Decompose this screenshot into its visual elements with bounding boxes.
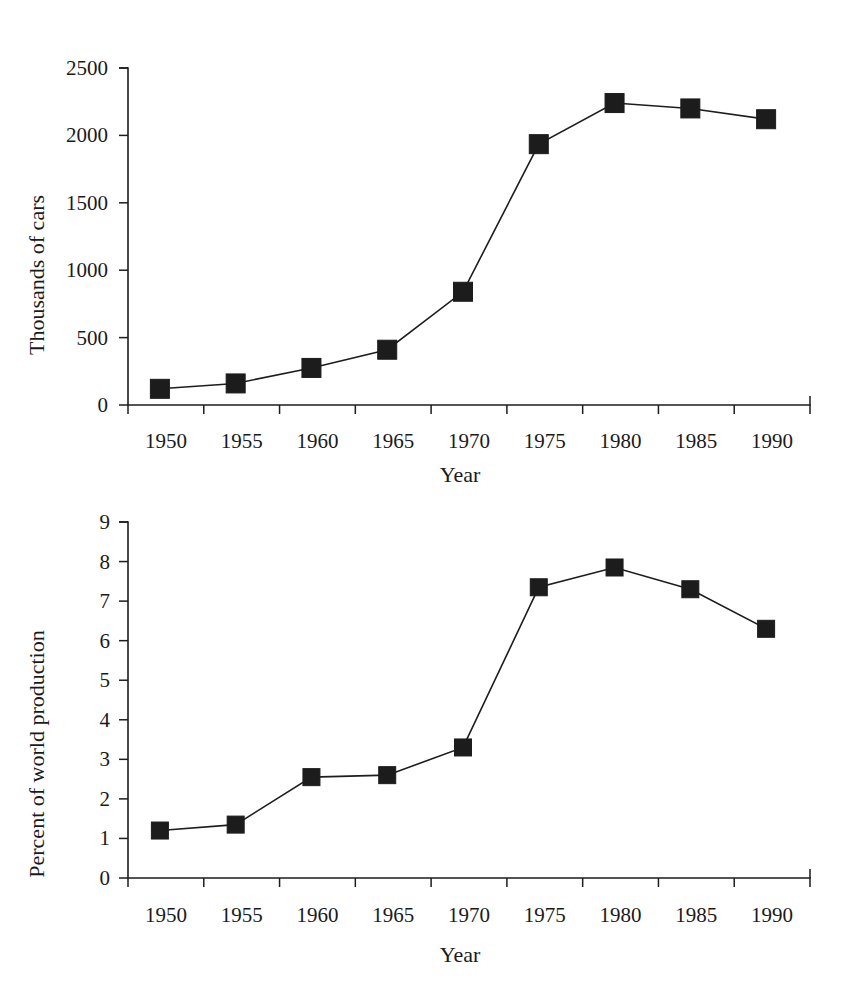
y-tick-label: 1 bbox=[100, 826, 111, 850]
x-tick-label: 1970 bbox=[448, 903, 490, 927]
y-tick-label: 0 bbox=[100, 866, 111, 890]
x-tick-label: 1975 bbox=[524, 429, 566, 453]
y-tick-label: 7 bbox=[100, 589, 111, 613]
data-point-marker bbox=[757, 110, 776, 129]
x-tick-label: 1975 bbox=[524, 903, 566, 927]
data-point-marker bbox=[530, 579, 547, 596]
data-point-marker bbox=[606, 559, 623, 576]
chart-canvas-cars: 05001000150020002500 1950195519601965197… bbox=[0, 0, 844, 492]
x-axis-ticks-cars bbox=[128, 405, 810, 414]
x-tick-labels-percent: 195019551960196519701975198019851990 bbox=[145, 903, 793, 927]
y-tick-label: 3 bbox=[100, 747, 111, 771]
data-point-marker bbox=[455, 739, 472, 756]
y-tick-label: 6 bbox=[100, 629, 111, 653]
data-point-marker bbox=[682, 581, 699, 598]
x-tick-label: 1955 bbox=[221, 429, 263, 453]
x-tick-label: 1990 bbox=[751, 429, 793, 453]
data-point-marker bbox=[303, 769, 320, 786]
x-axis-title-cars: Year bbox=[440, 462, 481, 487]
chart-percent-of-world-production: 0123456789 19501955196019651970197519801… bbox=[0, 492, 844, 985]
x-axis-ticks-percent bbox=[128, 878, 810, 887]
axis-lines-cars bbox=[119, 68, 810, 405]
data-point-marker bbox=[151, 822, 168, 839]
data-point-marker bbox=[454, 282, 473, 301]
y-tick-label: 2500 bbox=[66, 56, 108, 80]
x-tick-label: 1965 bbox=[372, 903, 414, 927]
axis-spine bbox=[128, 68, 810, 405]
x-axis-title-percent: Year bbox=[440, 942, 481, 967]
x-tick-label: 1950 bbox=[145, 429, 187, 453]
y-tick-label: 2 bbox=[100, 787, 111, 811]
data-point-marker bbox=[605, 94, 624, 113]
x-tick-label: 1980 bbox=[600, 429, 642, 453]
data-point-marker bbox=[529, 135, 548, 154]
chart-thousands-of-cars: 05001000150020002500 1950195519601965197… bbox=[0, 0, 844, 492]
data-point-marker bbox=[758, 620, 775, 637]
y-tick-label: 9 bbox=[100, 510, 111, 534]
x-tick-label: 1955 bbox=[221, 903, 263, 927]
y-axis-title-percent: Percent of world production bbox=[24, 630, 49, 877]
y-tick-label: 4 bbox=[100, 708, 111, 732]
data-series-percent bbox=[160, 567, 766, 830]
data-point-marker bbox=[379, 767, 396, 784]
data-point-marker bbox=[227, 816, 244, 833]
y-axis-ticks-percent bbox=[119, 522, 128, 878]
y-tick-label: 2000 bbox=[66, 123, 108, 147]
y-axis-ticks-cars bbox=[119, 68, 128, 405]
y-tick-labels-cars: 05001000150020002500 bbox=[66, 56, 108, 417]
x-tick-label: 1980 bbox=[600, 903, 642, 927]
y-axis-title-cars: Thousands of cars bbox=[24, 195, 49, 355]
data-markers-cars bbox=[150, 94, 775, 399]
data-point-marker bbox=[302, 358, 321, 377]
y-tick-labels-percent: 0123456789 bbox=[100, 510, 111, 890]
figure-page: 05001000150020002500 1950195519601965197… bbox=[0, 0, 844, 985]
data-markers-percent bbox=[151, 559, 774, 839]
data-series-cars bbox=[160, 103, 766, 389]
x-tick-label: 1990 bbox=[751, 903, 793, 927]
axis-lines-percent bbox=[119, 522, 810, 878]
chart-canvas-percent: 0123456789 19501955196019651970197519801… bbox=[0, 492, 844, 985]
x-tick-label: 1985 bbox=[675, 903, 717, 927]
x-tick-label: 1985 bbox=[675, 429, 717, 453]
x-tick-label: 1970 bbox=[448, 429, 490, 453]
y-tick-label: 5 bbox=[100, 668, 111, 692]
y-tick-label: 1000 bbox=[66, 258, 108, 282]
x-tick-label: 1960 bbox=[296, 903, 338, 927]
y-tick-label: 0 bbox=[98, 393, 109, 417]
data-point-marker bbox=[378, 340, 397, 359]
x-tick-label: 1965 bbox=[372, 429, 414, 453]
y-tick-label: 500 bbox=[77, 326, 109, 350]
series-polyline bbox=[160, 103, 766, 389]
series-polyline bbox=[160, 567, 766, 830]
y-tick-label: 1500 bbox=[66, 191, 108, 215]
x-tick-label: 1950 bbox=[145, 903, 187, 927]
x-tick-labels-cars: 195019551960196519701975198019851990 bbox=[145, 429, 793, 453]
y-tick-label: 8 bbox=[100, 550, 111, 574]
data-point-marker bbox=[681, 99, 700, 118]
x-tick-label: 1960 bbox=[296, 429, 338, 453]
data-point-marker bbox=[150, 379, 169, 398]
data-point-marker bbox=[226, 374, 245, 393]
